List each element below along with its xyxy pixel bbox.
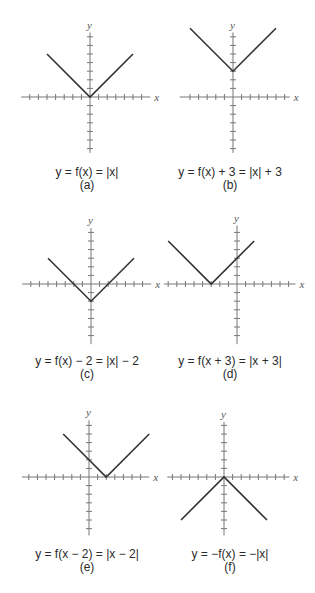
caption-c: y = f(x) − 2 = |x| − 2 (c) [12, 355, 162, 381]
caption-a: y = f(x) = |x| (a) [12, 166, 162, 192]
graph-panels: xyxyxyxyxyxy [0, 0, 315, 593]
label-c: (c) [12, 368, 162, 381]
caption-e: y = f(x − 2) = |x − 2| (e) [12, 548, 162, 574]
y-axis-label: y [229, 19, 235, 31]
transformations-of-absolute-value-figure: xyxyxyxyxyxy y = f(x) = |x| (a) y = f(x)… [0, 0, 315, 593]
label-a: (a) [12, 179, 162, 192]
y-axis-label: y [85, 406, 91, 418]
y-axis-label: y [233, 212, 239, 224]
y-axis-label: y [87, 214, 93, 226]
caption-f: y = −f(x) = −|x| (f) [155, 548, 305, 574]
y-axis-label: y [220, 408, 226, 420]
panel-e: xy [22, 406, 158, 535]
panel-c: xy [22, 214, 160, 344]
caption-b: y = f(x) + 3 = |x| + 3 (b) [155, 166, 305, 192]
y-axis-label: y [86, 19, 92, 31]
x-axis-label: x [152, 471, 158, 483]
x-axis-label: x [293, 91, 299, 103]
label-f: (f) [155, 561, 305, 574]
panel-b: xy [180, 19, 299, 153]
x-axis-label: x [292, 471, 298, 483]
label-e: (e) [12, 561, 162, 574]
label-d: (d) [155, 368, 305, 381]
panel-a: xy [21, 19, 159, 153]
x-axis-label: x [153, 91, 159, 103]
caption-d: y = f(x + 3) = |x + 3| (d) [155, 355, 305, 381]
x-axis-label: x [298, 278, 304, 290]
panel-f: xy [167, 408, 298, 536]
panel-d: xy [164, 212, 305, 345]
label-b: (b) [155, 179, 305, 192]
absolute-value-graph [63, 434, 149, 477]
absolute-value-graph [168, 241, 254, 284]
x-axis-label: x [154, 278, 160, 290]
